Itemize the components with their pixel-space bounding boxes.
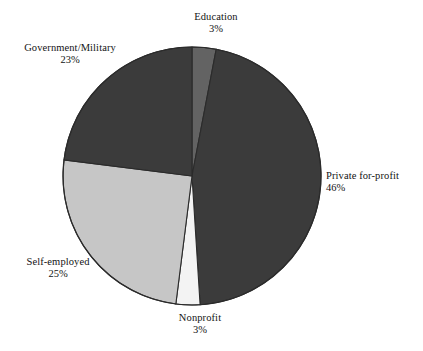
slice-label-education: Education 3% xyxy=(168,11,264,36)
slice-label-nonprofit: Nonprofit 3% xyxy=(152,312,248,337)
slice-label-education-category: Education xyxy=(168,11,264,23)
slice-label-private-for-profit: Private for-profit 46% xyxy=(326,170,422,195)
slice-label-nonprofit-category: Nonprofit xyxy=(152,312,248,324)
slice-label-government-military: Government/Military 23% xyxy=(2,42,138,67)
pie-slice-private-for-profit xyxy=(192,49,321,304)
slice-label-self-employed-value: 25% xyxy=(6,268,110,280)
slice-label-education-value: 3% xyxy=(168,23,264,35)
slice-label-nonprofit-value: 3% xyxy=(152,324,248,336)
slice-label-government-military-value: 23% xyxy=(2,54,138,66)
slice-label-self-employed: Self-employed 25% xyxy=(6,256,110,281)
slice-label-government-military-category: Government/Military xyxy=(2,42,138,54)
slice-label-private-for-profit-value: 46% xyxy=(326,182,422,194)
slice-label-self-employed-category: Self-employed xyxy=(6,256,110,268)
pie-chart: Education 3% Government/Military 23% Pri… xyxy=(0,0,423,351)
pie-slice-self-employed xyxy=(63,160,192,304)
slice-label-private-for-profit-category: Private for-profit xyxy=(326,170,422,182)
